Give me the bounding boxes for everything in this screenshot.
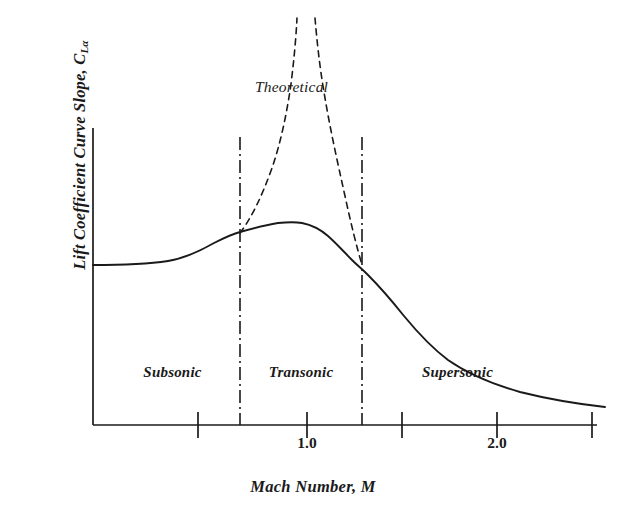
region-boundary-lines [240, 137, 362, 425]
x-axis-label: Mach Number, M [0, 477, 626, 497]
theoretical-curve-supersonic-branch [315, 18, 362, 265]
x-tick-label-1: 1.0 [284, 434, 330, 452]
region-label-transonic: Transonic [245, 364, 357, 381]
curve-label-theoretical: Theoretical [255, 78, 328, 96]
lift-curve-slope-chart: Lift Coefficient Curve Slope, CLα Mach N… [0, 0, 626, 522]
x-tick-label-2: 2.0 [474, 434, 520, 452]
theoretical-curve-subsonic-branch [240, 18, 297, 233]
y-axis-label-text: Lift Coefficient Curve Slope, C [70, 54, 89, 270]
y-axis-label-subscript: Lα [78, 41, 90, 54]
y-axis-label: Lift Coefficient Curve Slope, CLα [70, 5, 91, 305]
region-label-subsonic: Subsonic [110, 364, 235, 381]
region-label-supersonic: Supersonic [385, 364, 530, 381]
